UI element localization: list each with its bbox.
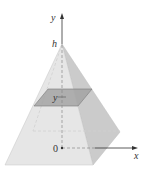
cross-section-label: y — [52, 92, 58, 103]
apex-height-label: h — [52, 38, 57, 49]
origin-point — [61, 147, 63, 149]
x-axis-label: x — [133, 150, 139, 161]
y-axis-label: y — [50, 12, 56, 23]
origin-label: 0 — [53, 143, 58, 154]
pyramid-diagram: y x h 0 y — [0, 0, 154, 175]
y-axis-arrow-icon — [60, 13, 64, 19]
